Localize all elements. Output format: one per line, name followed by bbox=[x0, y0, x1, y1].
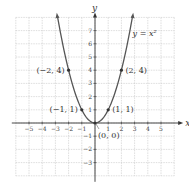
y-tick-label: −1 bbox=[83, 132, 92, 139]
curve-arrow-icon bbox=[56, 13, 60, 19]
x-axis-arrow-icon bbox=[178, 121, 183, 125]
y-tick-label: −3 bbox=[83, 159, 92, 166]
x-tick-label: 3 bbox=[133, 125, 137, 132]
x-tick-label: −4 bbox=[38, 125, 47, 132]
point-label: (0, 0) bbox=[98, 131, 120, 140]
y-axis-label: y bbox=[91, 3, 98, 13]
x-tick-label: −5 bbox=[25, 125, 34, 132]
data-point bbox=[80, 108, 83, 111]
y-tick-label: 6 bbox=[88, 40, 92, 47]
x-tick-label: 2 bbox=[119, 125, 123, 132]
y-tick-label: −2 bbox=[83, 145, 92, 152]
point-label: (−1, 1) bbox=[50, 105, 78, 114]
y-tick-label: 4 bbox=[88, 66, 92, 73]
y-tick-label: 7 bbox=[88, 27, 92, 34]
point-label: (−2, 4) bbox=[36, 66, 64, 75]
data-point bbox=[107, 108, 110, 111]
data-point bbox=[67, 69, 70, 72]
x-tick-label: 4 bbox=[146, 125, 150, 132]
point-label: (2, 4) bbox=[125, 66, 147, 75]
x-tick-label: 5 bbox=[159, 125, 163, 132]
y-tick-label: 5 bbox=[88, 53, 92, 60]
origin-leader-line bbox=[96, 124, 99, 129]
point-label: (1, 1) bbox=[112, 105, 134, 114]
curve-arrow-icon bbox=[131, 13, 135, 19]
data-point bbox=[120, 69, 123, 72]
y-tick-label: 3 bbox=[88, 79, 92, 86]
y-tick-label: 2 bbox=[88, 93, 92, 100]
y-tick-label: 1 bbox=[88, 106, 92, 113]
x-axis-label: x bbox=[185, 118, 189, 128]
x-tick-label: −2 bbox=[64, 125, 73, 132]
parabola-chart: xy−5−4−3−2−112345−3−2−11234567y = x²(−2,… bbox=[0, 0, 189, 187]
x-tick-label: −3 bbox=[51, 125, 60, 132]
equation-label: y = x² bbox=[132, 29, 157, 38]
x-tick-label: −1 bbox=[77, 125, 86, 132]
